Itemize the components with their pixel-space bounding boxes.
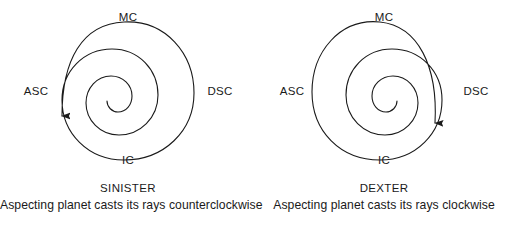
cardinal-label-asc: ASC: [264, 85, 320, 98]
panel-description-dexter: Aspecting planet casts its rays clockwis…: [256, 198, 512, 213]
cardinal-label-ic: IC: [256, 154, 512, 167]
cardinal-label-asc: ASC: [8, 85, 64, 98]
panel-sinister: MC ASC DSC IC SINISTER Aspecting planet …: [0, 0, 256, 228]
cardinal-label-dsc: DSC: [448, 85, 504, 98]
panel-title-dexter: DEXTER: [256, 181, 512, 195]
sinister-spiral-path: [62, 22, 194, 160]
panel-title-sinister: SINISTER: [0, 181, 256, 195]
spiral-diagram-dexter: MC ASC DSC IC: [256, 0, 512, 176]
cardinal-label-dsc: DSC: [192, 85, 248, 98]
cardinal-label-mc: MC: [256, 11, 512, 24]
cardinal-label-ic: IC: [0, 154, 256, 167]
panel-dexter: MC ASC DSC IC DEXTER Aspecting planet ca…: [256, 0, 512, 228]
aspect-direction-figure: MC ASC DSC IC SINISTER Aspecting planet …: [0, 0, 512, 228]
dexter-spiral-path: [312, 22, 442, 160]
cardinal-label-mc: MC: [0, 11, 256, 24]
panel-description-sinister: Aspecting planet casts its rays counterc…: [0, 198, 256, 213]
spiral-diagram-sinister: MC ASC DSC IC: [0, 0, 256, 176]
